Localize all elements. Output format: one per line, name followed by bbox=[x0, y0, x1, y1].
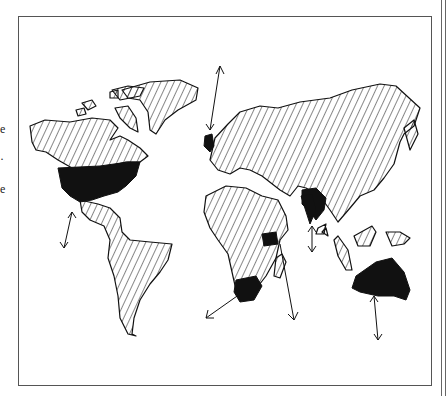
southern-africa-region bbox=[234, 276, 262, 302]
world-map bbox=[0, 0, 448, 396]
usa-region bbox=[58, 162, 140, 202]
australia-region bbox=[352, 258, 410, 300]
south-america bbox=[80, 200, 172, 336]
east-africa-region bbox=[262, 232, 278, 246]
